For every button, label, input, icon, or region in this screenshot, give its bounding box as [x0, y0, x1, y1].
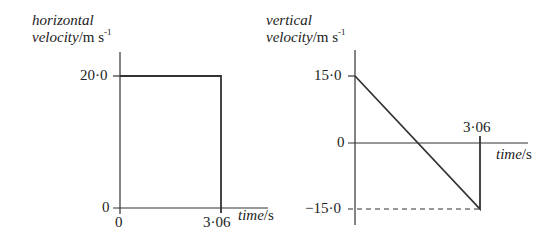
v-ytick-0: 0: [337, 134, 345, 151]
h-velocity-line: [120, 76, 221, 213]
horizontal-velocity-graph: [113, 52, 268, 214]
h-ylabel-line1: horizontal: [32, 12, 94, 29]
v-ylabel-line1: vertical: [266, 12, 312, 29]
h-ytick-20: 20·0: [80, 67, 108, 84]
v-xtick-306: 3·06: [463, 119, 491, 136]
h-xlabel: time/s: [238, 207, 274, 224]
v-xlabel: time/s: [496, 146, 532, 163]
vertical-velocity-graph: [348, 50, 528, 225]
h-ytick-0: 0: [102, 199, 110, 216]
v-ytick-minus15: −15·0: [305, 200, 341, 217]
h-ylabel-line2: velocity/m s-1: [32, 29, 112, 46]
v-ylabel-line2: velocity/m s-1: [266, 29, 346, 46]
v-ytick-15: 15·0: [314, 67, 342, 84]
h-xtick-0: 0: [115, 214, 123, 231]
h-xtick-306: 3·06: [203, 214, 231, 231]
